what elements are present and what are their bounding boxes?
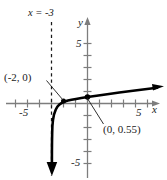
- graph-canvas: [0, 0, 167, 180]
- x-intercept-leader-line: [47, 81, 64, 101]
- asymptote-label: x = -3: [28, 8, 54, 19]
- curve-right-arrowhead: [152, 84, 164, 91]
- y-tick-label-neg5: -5: [71, 157, 80, 168]
- x-intercept-label: (-2, 0): [4, 72, 32, 83]
- y-intercept-leader-line: [87, 98, 104, 124]
- x-tick-label-5: 5: [136, 107, 142, 118]
- y-intercept-label: (0, 0.55): [103, 124, 141, 135]
- x-tick-label-neg5: -5: [19, 107, 28, 118]
- y-axis-arrowhead: [84, 17, 90, 25]
- curve-down-arrowhead: [47, 162, 58, 176]
- x-axis-label: x: [152, 104, 157, 115]
- y-tick-label-5: 5: [76, 38, 82, 49]
- y-axis-label: y: [78, 17, 83, 28]
- graph-figure: x = -3 y x 5 -5 -5 5 (-2, 0) (0, 0.55): [0, 0, 167, 180]
